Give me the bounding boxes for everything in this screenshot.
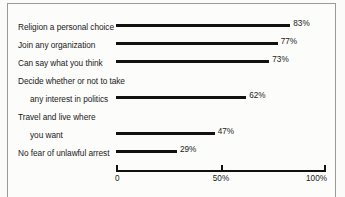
bar-value-label: 73% — [272, 55, 288, 64]
category-label-line2: any interest in politics — [30, 94, 108, 104]
category-label-line1: Decide whether or not to take — [18, 76, 125, 86]
bar-chart-plot-area: Religion a personal choice 83% Join any … — [0, 0, 345, 197]
x-axis-tick-50 — [221, 165, 223, 171]
x-axis-tick-label-0: 0 — [115, 174, 120, 183]
bar-decide-interest-in-politics — [116, 96, 246, 99]
bar-join-any-organization — [116, 42, 278, 45]
category-label: Religion a personal choice — [18, 22, 114, 32]
category-label-line2: you want — [30, 130, 63, 140]
x-axis-tick-100 — [324, 165, 326, 171]
category-label: Join any organization — [18, 40, 95, 50]
category-label: Can say what you think — [18, 58, 103, 68]
chart-page: Religion a personal choice 83% Join any … — [0, 0, 345, 197]
category-label-line1: Travel and live where — [18, 112, 96, 122]
bar-value-label: 77% — [281, 37, 297, 46]
bar-travel-and-live-where-you-want — [116, 132, 215, 135]
bar-value-label: 29% — [180, 145, 196, 154]
bar-can-say-what-you-think — [116, 60, 269, 63]
x-axis-tick-label-50: 50% — [213, 174, 229, 183]
category-label: No fear of unlawful arrest — [18, 148, 109, 158]
x-axis-tick-0 — [116, 165, 118, 171]
bar-religion-a-personal-choice — [116, 24, 290, 27]
bar-value-label: 47% — [218, 127, 234, 136]
x-axis-tick-label-100: 100% — [306, 174, 327, 183]
bar-value-label: 83% — [293, 19, 309, 28]
bar-no-fear-of-unlawful-arrest — [116, 150, 177, 153]
bar-value-label: 62% — [249, 91, 265, 100]
